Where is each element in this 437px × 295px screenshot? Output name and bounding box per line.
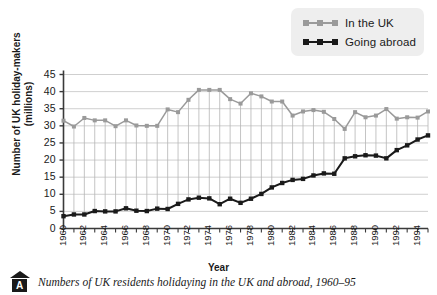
data-point-marker [301, 109, 305, 113]
x-tick-label: 1976 [223, 224, 234, 245]
data-point-marker [249, 91, 253, 95]
y-tick-label: 10 [34, 187, 56, 199]
y-tick-label: 15 [34, 170, 56, 182]
data-point-marker [416, 116, 420, 120]
x-tick-label: 1962 [77, 224, 88, 245]
data-point-marker [61, 214, 65, 218]
data-point-marker [186, 197, 190, 201]
data-point-marker [113, 209, 117, 213]
data-point-marker [353, 110, 357, 114]
series-line-in-the-uk [64, 90, 429, 129]
data-point-marker [374, 114, 378, 118]
data-point-marker [72, 125, 76, 129]
y-tick-label: 45 [34, 68, 56, 80]
data-point-marker [218, 202, 222, 206]
data-point-marker [270, 100, 274, 104]
data-point-marker [134, 123, 138, 127]
x-tick-label: 1964 [98, 224, 109, 245]
data-point-marker [134, 209, 138, 213]
data-point-marker [280, 100, 284, 104]
series-line-going-abroad [64, 135, 429, 216]
data-point-marker [322, 171, 326, 175]
y-tick-label: 35 [34, 102, 56, 114]
data-point-marker [93, 209, 97, 213]
data-point-marker [145, 209, 149, 213]
y-tick-label: 20 [34, 153, 56, 165]
data-point-marker [301, 177, 305, 181]
data-point-marker [353, 154, 357, 158]
data-point-marker [342, 156, 346, 160]
x-tick-label: 1974 [202, 224, 213, 245]
x-tick-label: 1960 [57, 224, 68, 245]
data-point-marker [197, 196, 201, 200]
data-point-marker [332, 117, 336, 121]
y-tick-label: 25 [34, 136, 56, 148]
data-point-marker [124, 206, 128, 210]
data-point-marker [311, 173, 315, 177]
x-tick-label: 1988 [348, 224, 359, 245]
data-point-marker [238, 201, 242, 205]
y-tick-label: 5 [34, 204, 56, 216]
data-point-marker [82, 116, 86, 120]
data-point-marker [332, 172, 336, 176]
data-point-marker [176, 110, 180, 114]
x-tick-label: 1990 [369, 224, 380, 245]
data-point-marker [155, 124, 159, 128]
data-point-marker [207, 196, 211, 200]
data-point-marker [93, 118, 97, 122]
x-tick-label: 1970 [161, 224, 172, 245]
data-point-marker [228, 97, 232, 101]
data-point-marker [384, 107, 388, 111]
data-point-marker [207, 88, 211, 92]
data-point-marker [62, 119, 66, 123]
data-point-marker [145, 124, 149, 128]
data-point-marker [103, 209, 107, 213]
data-point-marker [155, 206, 159, 210]
data-point-marker [259, 94, 263, 98]
data-point-marker [415, 137, 419, 141]
x-tick-label: 1992 [390, 224, 401, 245]
data-point-marker [395, 117, 399, 121]
data-point-marker [405, 143, 409, 147]
plot-area [0, 0, 437, 295]
data-point-marker [72, 212, 76, 216]
data-point-marker [270, 185, 274, 189]
data-point-marker [103, 118, 107, 122]
data-point-marker [374, 153, 378, 157]
x-tick-label: 1994 [411, 224, 422, 245]
y-tick-label: 30 [34, 119, 56, 131]
figure-holiday-makers: In the UK Going abroad Number of UK holi… [0, 0, 437, 295]
caption-marker-letter: A [12, 279, 27, 292]
data-point-marker [228, 197, 232, 201]
x-tick-label: 1968 [140, 224, 151, 245]
data-point-marker [426, 133, 430, 137]
data-point-marker [311, 108, 315, 112]
data-point-marker [322, 110, 326, 114]
data-point-marker [280, 181, 284, 185]
data-point-marker [363, 153, 367, 157]
x-tick-label: 1982 [286, 224, 297, 245]
x-tick-label: 1972 [181, 224, 192, 245]
y-tick-label: 40 [34, 85, 56, 97]
x-tick-label: 1984 [306, 224, 317, 245]
x-tick-label: 1978 [244, 224, 255, 245]
caption-text: Numbers of UK residents holidaying in th… [38, 276, 356, 288]
x-tick-label: 1980 [265, 224, 276, 245]
figure-caption: A Numbers of UK residents holidaying in … [8, 271, 433, 293]
data-point-marker [395, 148, 399, 152]
data-point-marker [82, 212, 86, 216]
x-tick-label: 1966 [119, 224, 130, 245]
data-point-marker [239, 102, 243, 106]
data-point-marker [166, 107, 170, 111]
data-point-marker [218, 88, 222, 92]
data-point-marker [405, 115, 409, 119]
data-point-marker [249, 197, 253, 201]
data-point-marker [186, 98, 190, 102]
data-point-marker [124, 118, 128, 122]
caption-marker-icon: A [8, 271, 32, 293]
data-point-marker [364, 115, 368, 119]
data-point-marker [176, 202, 180, 206]
data-point-marker [384, 156, 388, 160]
data-point-marker [259, 192, 263, 196]
x-tick-label: 1986 [327, 224, 338, 245]
